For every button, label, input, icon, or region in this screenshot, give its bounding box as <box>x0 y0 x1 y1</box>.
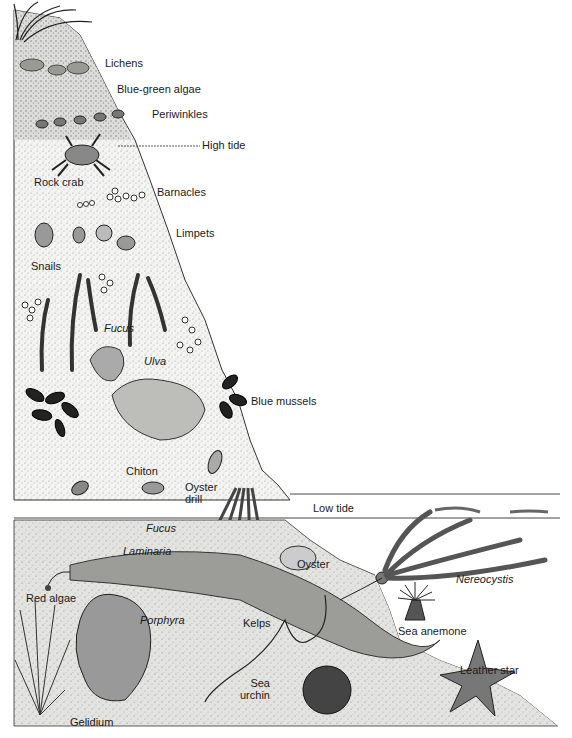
label-chiton: Chiton <box>126 465 158 477</box>
subtidal-zone <box>14 508 558 726</box>
label-lichens: Lichens <box>105 57 143 69</box>
label-oyster: Oyster <box>297 558 329 570</box>
label-nereocystis: Nereocystis <box>456 573 513 585</box>
label-blue-mussels: Blue mussels <box>251 395 316 407</box>
label-ulva: Ulva <box>144 355 166 367</box>
illustration-artwork <box>0 0 572 738</box>
label-fucus-lower: Fucus <box>146 522 176 534</box>
label-gelidium: Gelidium <box>70 716 113 728</box>
label-low-tide: Low tide <box>313 502 354 514</box>
label-limpets: Limpets <box>176 227 215 239</box>
label-sea-anemone: Sea anemone <box>398 625 467 637</box>
intertidal-diagram: Lichens Blue-green algae Periwinkles Hig… <box>0 0 572 738</box>
label-sea-urchin: Sea urchin <box>240 677 270 701</box>
label-fucus-upper: Fucus <box>104 322 134 334</box>
label-laminaria: Laminaria <box>123 545 171 557</box>
label-blue-green-algae: Blue-green algae <box>117 83 201 95</box>
label-snails: Snails <box>31 260 61 272</box>
label-periwinkles: Periwinkles <box>152 108 208 120</box>
label-red-algae: Red algae <box>26 592 76 604</box>
label-high-tide: High tide <box>202 139 245 151</box>
label-kelps: Kelps <box>243 617 271 629</box>
label-rock-crab: Rock crab <box>34 176 84 188</box>
label-oyster-drill: Oyster drill <box>185 481 217 505</box>
label-porphyra: Porphyra <box>140 614 185 626</box>
label-barnacles: Barnacles <box>157 186 206 198</box>
label-leather-star: Leather star <box>460 664 519 676</box>
